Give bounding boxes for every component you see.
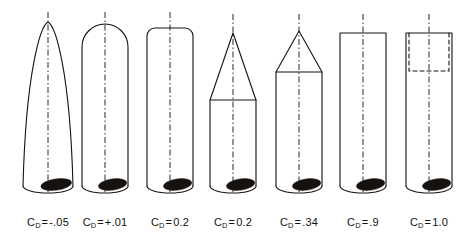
shape-hollow-cup-cylinder [406, 14, 452, 193]
shape-flat-face-cylinder [340, 14, 386, 193]
base-shaded-ellipse [163, 177, 193, 192]
base-shaded-ellipse [292, 177, 322, 192]
shape-sharp-slender-cone-nose [210, 14, 256, 193]
nose-shape-drawing [0, 0, 470, 240]
shape-blunt-wide-cone-nose [276, 14, 322, 193]
shapes-layer [23, 12, 452, 193]
base-shaded-ellipse [422, 177, 452, 192]
base-shaded-ellipse [98, 177, 128, 192]
shape-hemispherical-nose [82, 12, 128, 193]
base-shaded-ellipse [356, 177, 386, 192]
base-shaded-ellipse [226, 177, 256, 192]
drag-coefficient-figure: CD=-.05CD=+.01CD=0.2CD=0.2CD=.34CD=.9CD=… [0, 0, 470, 240]
shape-small-radius-flat-nose [147, 12, 193, 193]
shape-parabolic-ogive-nose [23, 12, 73, 193]
